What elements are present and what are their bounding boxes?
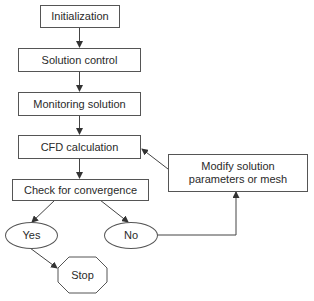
stop-octagon: Stop [58, 257, 107, 293]
monitoring-solution-label: Monitoring solution [33, 98, 125, 111]
initialization-box: Initialization [40, 5, 120, 28]
yes-label: Yes [23, 229, 41, 242]
edge-yes-to-stop [30, 248, 57, 268]
monitoring-solution-box: Monitoring solution [18, 92, 141, 116]
initialization-label: Initialization [51, 10, 108, 23]
yes-ellipse: Yes [5, 222, 58, 249]
stop-label: Stop [58, 257, 107, 293]
no-ellipse: No [104, 222, 158, 249]
edge-check-to-no [100, 200, 128, 222]
cfd-calculation-box: CFD calculation [18, 135, 141, 159]
modify-solution-box: Modify solution parameters or mesh [168, 154, 308, 192]
solution-control-box: Solution control [18, 48, 141, 72]
check-convergence-box: Check for convergence [12, 179, 149, 201]
check-convergence-label: Check for convergence [24, 184, 137, 197]
solution-control-label: Solution control [42, 54, 118, 67]
modify-label-line1: Modify solution [201, 160, 274, 173]
cfd-calculation-label: CFD calculation [41, 141, 119, 154]
edge-modify-to-cfd [142, 149, 168, 169]
modify-label-line2: parameters or mesh [189, 173, 287, 186]
no-label: No [124, 229, 138, 242]
edge-check-to-yes [32, 200, 55, 222]
edge-no-to-modify [157, 192, 236, 235]
